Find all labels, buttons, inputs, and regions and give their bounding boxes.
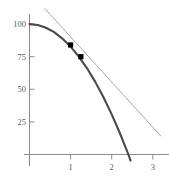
y-tick-label-75: 75: [18, 52, 27, 62]
secant-line: [45, 8, 161, 136]
y-tick-label-100: 100: [13, 19, 26, 29]
chart-figure: 100 75 50 25 1 2 3: [0, 0, 169, 176]
x-tick-label-2: 2: [110, 162, 114, 172]
x-tick-label-3: 3: [151, 162, 155, 172]
data-point-markers: [68, 42, 83, 59]
parabola-curve: [30, 24, 131, 161]
data-point-point-1: [68, 42, 73, 47]
plot-canvas: 100 75 50 25 1 2 3: [0, 0, 169, 176]
x-tick-label-1: 1: [68, 162, 72, 172]
y-tick-label-25: 25: [18, 117, 27, 127]
y-tick-label-50: 50: [18, 84, 27, 94]
data-point-point-2: [78, 54, 83, 59]
